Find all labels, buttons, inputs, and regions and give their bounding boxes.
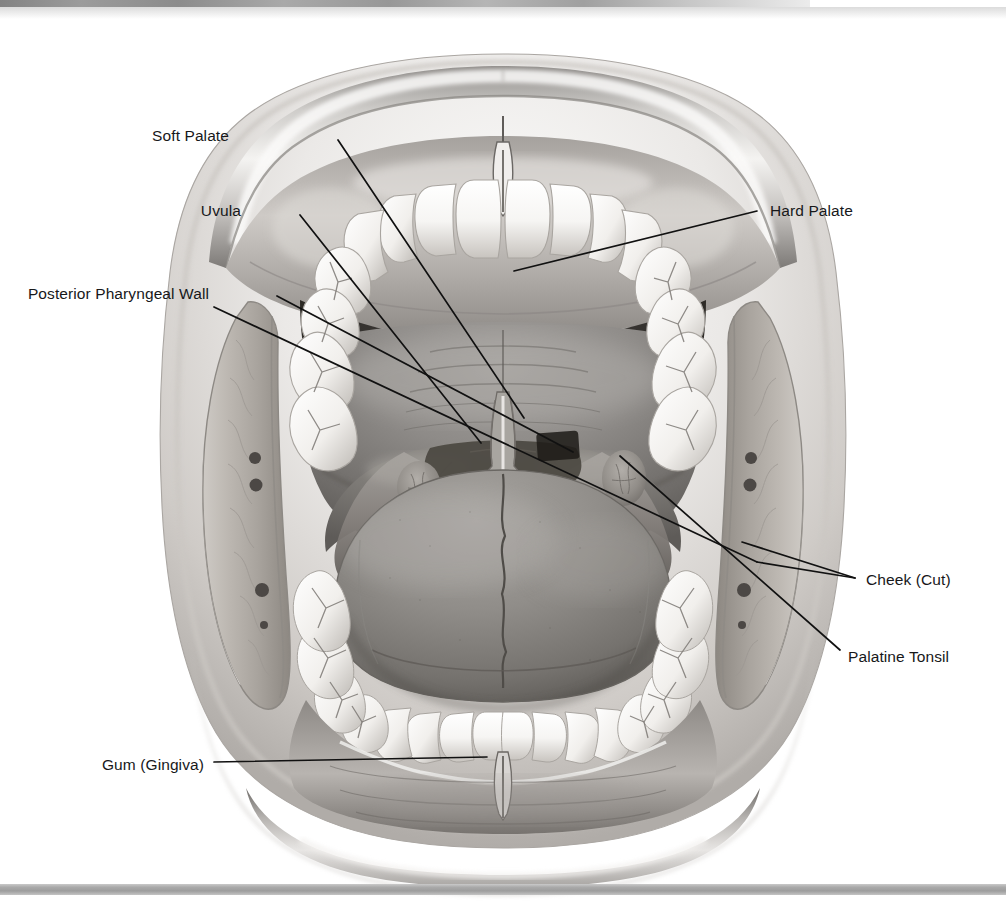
- label-gum-gingiva: Gum (Gingiva): [0, 757, 204, 773]
- label-palatine-tonsil: Palatine Tonsil: [848, 649, 949, 665]
- figure-page: Soft Palate Uvula Posterior Pharyngeal W…: [0, 0, 1006, 917]
- scan-bottom-bar-artifact: [0, 884, 1006, 895]
- label-soft-palate: Soft Palate: [130, 128, 229, 144]
- label-cheek-cut: Cheek (Cut): [866, 572, 951, 588]
- label-posterior-pharyngeal-wall: Posterior Pharyngeal Wall: [0, 286, 209, 302]
- label-uvula: Uvula: [161, 203, 241, 219]
- tongue: [334, 470, 673, 708]
- label-hard-palate: Hard Palate: [770, 203, 853, 219]
